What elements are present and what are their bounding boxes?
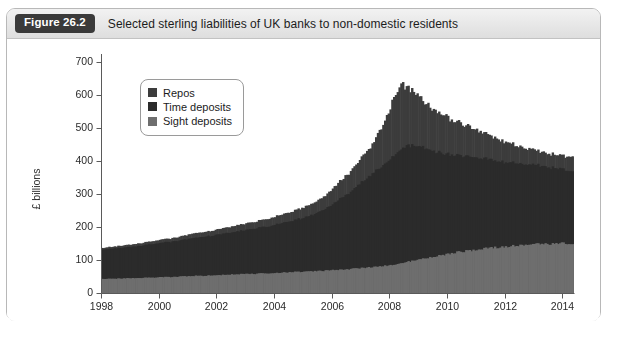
figure-panel: Figure 26.2 Selected sterling liabilitie… [6,8,601,321]
legend-label-repos: Repos [163,87,195,100]
figure-screenshot: Figure 26.2 Selected sterling liabilitie… [0,0,623,339]
legend-swatch-time-deposits [148,102,157,111]
legend-label-sight-deposits: Sight deposits [163,115,232,128]
legend-item-time-deposits: Time deposits [148,101,232,114]
chart-legend: Repos Time deposits Sight deposits [140,79,244,136]
legend-item-sight-deposits: Sight deposits [148,115,232,128]
chart-plot-area: £ billions Repos Time deposits Sight dep… [7,40,600,321]
figure-number-badge: Figure 26.2 [15,14,95,33]
figure-header: Figure 26.2 Selected sterling liabilitie… [7,9,600,39]
figure-title: Selected sterling liabilities of UK bank… [108,17,458,31]
stacked-area-chart-canvas [7,40,600,321]
source-caption [36,330,596,339]
legend-swatch-sight-deposits [148,117,157,126]
legend-swatch-repos [148,88,157,97]
legend-label-time-deposits: Time deposits [163,101,231,114]
legend-item-repos: Repos [148,87,232,100]
